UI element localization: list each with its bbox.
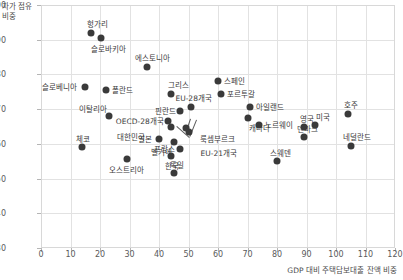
y-tick-label: 30 <box>0 244 6 253</box>
y-tick-mark <box>37 40 41 41</box>
data-point-label: 일본 <box>138 135 152 144</box>
y-tick-mark <box>37 5 41 6</box>
x-tick-label: 70 <box>242 250 252 259</box>
data-point-label: 오스트리아 <box>109 166 144 175</box>
data-point-label: 핀란드 <box>155 107 176 116</box>
data-point-label: 호주 <box>344 101 358 110</box>
data-point-label: 덴마크 <box>297 125 318 134</box>
data-point-label: 아일랜드 <box>256 103 284 112</box>
data-point <box>98 34 105 41</box>
gridline-horizontal <box>42 213 394 214</box>
data-point <box>167 153 174 160</box>
data-point-label: 스페인 <box>224 77 245 86</box>
data-point <box>167 123 174 130</box>
gridline-horizontal <box>42 74 394 75</box>
y-tick-label: 100 <box>0 1 6 10</box>
data-point <box>185 128 192 135</box>
x-axis-title: GDP 대비 주택담보대출 잔액 비중 <box>287 264 397 275</box>
gridline-vertical <box>71 6 72 247</box>
data-point-label: 스웨덴 <box>270 149 291 158</box>
data-point-label: 슬로바키아 <box>91 45 126 54</box>
gridline-vertical <box>366 6 367 247</box>
data-point <box>274 158 281 165</box>
y-tick-label: 90 <box>0 35 6 44</box>
x-tick-label: 50 <box>183 250 193 259</box>
data-point-label: 네덜란드 <box>343 133 371 142</box>
data-point <box>347 142 354 149</box>
data-point <box>176 146 183 153</box>
y-tick-label: 40 <box>0 209 6 218</box>
y-tick-mark <box>37 144 41 145</box>
gridline-vertical <box>336 6 337 247</box>
data-point-label: 포르투갈 <box>227 90 255 99</box>
x-tick-label: 90 <box>301 250 311 259</box>
data-point <box>244 114 251 121</box>
data-point <box>176 107 183 114</box>
x-tick-label: 60 <box>213 250 223 259</box>
data-point-label: 에스토니아 <box>135 54 170 63</box>
y-tick-label: 60 <box>0 139 6 148</box>
data-point <box>79 144 86 151</box>
gridline-vertical <box>218 6 219 247</box>
data-point <box>247 104 254 111</box>
data-point <box>170 170 177 177</box>
scatter-chart: 자가 점유 비중 GDP 대비 주택담보대출 잔액 비중 01020304050… <box>0 0 403 280</box>
y-tick-mark <box>37 248 41 249</box>
x-tick-label: 110 <box>358 250 373 259</box>
gridline-horizontal <box>42 179 394 180</box>
data-point <box>88 29 95 36</box>
y-axis-title: 자가 점유 비중 <box>2 2 36 22</box>
x-tick-label: 0 <box>38 250 43 259</box>
y-tick-mark <box>37 109 41 110</box>
y-tick-label: 70 <box>0 105 6 114</box>
y-tick-mark <box>37 74 41 75</box>
data-point-label: 체코 <box>76 135 90 144</box>
data-point <box>188 104 195 111</box>
data-point <box>144 64 151 71</box>
y-tick-mark <box>37 179 41 180</box>
gridline-vertical <box>130 6 131 247</box>
data-point <box>300 133 307 140</box>
data-point <box>215 78 222 85</box>
x-tick-label: 80 <box>272 250 282 259</box>
data-point-label: 폴란드 <box>112 86 133 95</box>
data-point-label: 미국 <box>316 113 330 122</box>
data-point <box>123 156 130 163</box>
data-point-label: 독일 <box>170 161 184 170</box>
y-tick-mark <box>37 213 41 214</box>
data-point <box>82 83 89 90</box>
gridline-horizontal <box>42 40 394 41</box>
data-point <box>167 90 174 97</box>
data-point-label: 슬로베니아 <box>42 83 77 92</box>
data-point-label: 헝가리 <box>87 20 108 29</box>
x-tick-label: 10 <box>65 250 75 259</box>
data-point-label: EU-21개국 <box>201 149 237 158</box>
data-point-label: OECD-28개국 <box>116 117 164 126</box>
gridline-vertical <box>159 6 160 247</box>
x-tick-label: 40 <box>154 250 164 259</box>
gridline-vertical <box>100 6 101 247</box>
y-tick-label: 50 <box>0 174 6 183</box>
data-point-label: 룩셈부르크 <box>200 135 235 144</box>
plot-area <box>41 5 395 248</box>
x-tick-label: 100 <box>328 250 343 259</box>
data-point-label: 노르웨이 <box>265 121 293 130</box>
data-point-label: EU-28개국 <box>175 94 211 103</box>
data-point <box>217 90 224 97</box>
data-point-label: 그리스 <box>168 81 189 90</box>
data-point <box>256 121 263 128</box>
data-point <box>156 135 163 142</box>
x-tick-label: 30 <box>124 250 134 259</box>
data-point <box>102 87 109 94</box>
x-tick-label: 20 <box>95 250 105 259</box>
data-point-label: 이탈리아 <box>79 105 107 114</box>
data-point <box>344 111 351 118</box>
x-tick-label: 120 <box>387 250 402 259</box>
y-tick-label: 80 <box>0 70 6 79</box>
